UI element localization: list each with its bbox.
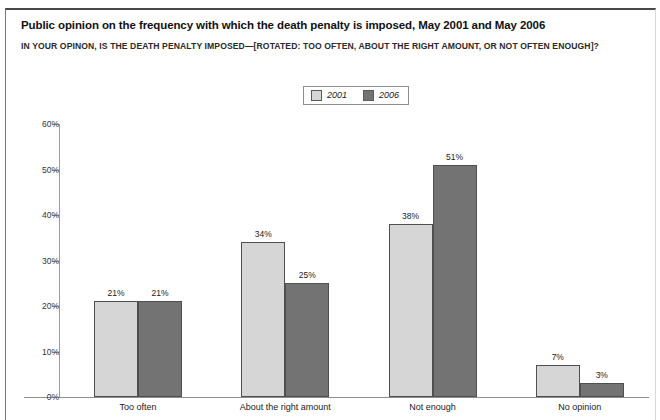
bar-2001-about-the-right-amount — [241, 242, 285, 397]
y-tick-label: 40% — [17, 210, 59, 220]
y-tick-label: 60% — [17, 119, 59, 129]
category-label-no-opinion: No opinion — [500, 402, 660, 412]
y-tick-label: 0% — [17, 392, 59, 402]
bar-2006-too-often — [138, 301, 182, 397]
y-axis-line — [59, 124, 60, 398]
bar-2001-too-often — [94, 301, 138, 397]
bar-value-label: 3% — [572, 370, 632, 380]
bar-2006-no-opinion — [580, 383, 624, 397]
category-label-about-the-right-amount: About the right amount — [205, 402, 365, 412]
bar-value-label: 7% — [528, 352, 588, 362]
bar-value-label: 34% — [233, 229, 293, 239]
bar-value-label: 25% — [277, 270, 337, 280]
category-label-too-often: Too often — [58, 402, 218, 412]
bar-2006-about-the-right-amount — [285, 283, 329, 397]
chart-figure: Public opinion on the frequency with whi… — [5, 8, 656, 420]
plot-area: 0%10%20%30%40%50%60% 21%21%34%25%38%51%7… — [6, 10, 657, 420]
bar-value-label: 21% — [130, 288, 190, 298]
y-tick-label: 20% — [17, 301, 59, 311]
category-label-not-enough: Not enough — [353, 402, 513, 412]
y-tick-label: 10% — [17, 347, 59, 357]
y-tick-label: 30% — [17, 256, 59, 266]
bar-2001-not-enough — [389, 224, 433, 397]
bar-value-label: 51% — [425, 152, 485, 162]
x-axis-line — [24, 397, 649, 398]
y-tick-label: 50% — [17, 165, 59, 175]
bar-value-label: 38% — [381, 211, 441, 221]
bar-2006-not-enough — [433, 165, 477, 397]
